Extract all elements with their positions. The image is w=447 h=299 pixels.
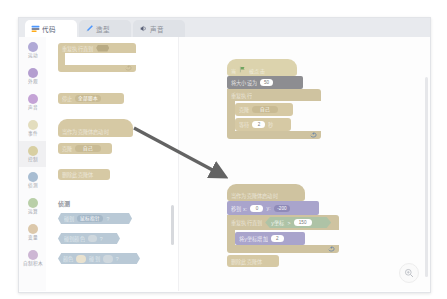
page-watermark xyxy=(180,1,270,12)
change-y-value-input[interactable]: 2 xyxy=(271,235,284,242)
editor-tab-bar: 代码 造型 声音 xyxy=(19,18,430,38)
palette-block-stop[interactable]: 停止 全部脚本 xyxy=(58,93,124,104)
block-set-size-to[interactable]: 将大小设为 50 xyxy=(227,76,303,89)
palette-block-delete-clone[interactable]: 删除此克隆体 xyxy=(58,169,110,180)
clicked-label: 被点击 xyxy=(249,67,265,74)
green-flag-icon xyxy=(239,66,246,74)
block-label: 删除此克隆体 xyxy=(62,171,93,178)
operators-dot-icon xyxy=(28,198,38,208)
sidebar-item-motion[interactable]: 运动 xyxy=(19,37,46,63)
sidebar-item-events[interactable]: 事件 xyxy=(19,115,46,141)
repeat-until-top: 重复执行直到 y坐标 > 150 xyxy=(227,215,339,230)
category-label: 事件 xyxy=(28,131,38,136)
x-value-input[interactable]: 0 xyxy=(250,205,263,212)
palette-block-create-clone[interactable]: 克隆 自己 xyxy=(58,143,112,154)
operator-symbol: > xyxy=(287,220,290,226)
events-dot-icon xyxy=(28,120,38,130)
block-repeat-until[interactable]: 重复执行直到 y坐标 > 150 将y坐标增加 2 xyxy=(227,215,339,253)
condition-greater-than[interactable]: y坐标 > 150 xyxy=(265,217,331,228)
palette-section-sensing: 侦测 xyxy=(58,199,70,208)
script-clone-start[interactable]: 当作为克隆体启动时 移到 x: 0 y: -200 重复执行直到 y坐标 > xyxy=(227,184,339,267)
block-when-flag-clicked[interactable]: 当 被点击 xyxy=(227,59,297,76)
block-wait-seconds[interactable]: 等待 2 秒 xyxy=(235,118,291,131)
block-go-to-xy[interactable]: 移到 x: 0 y: -200 xyxy=(227,201,319,215)
tab-sounds-label: 声音 xyxy=(150,24,164,34)
palette-block-repeat-until[interactable]: 重复执行直到 xyxy=(58,43,136,72)
tab-code-label: 代码 xyxy=(42,24,56,34)
zoom-control-button[interactable] xyxy=(399,263,419,283)
clone-target-dropdown[interactable]: 自己 xyxy=(75,145,101,152)
palette-block-when-clone-start[interactable]: 当作为克隆体启动时 xyxy=(58,119,133,137)
block-label: 碰到 xyxy=(89,255,99,262)
block-when-i-start-as-clone[interactable]: 当作为克隆体启动时 xyxy=(227,184,305,201)
y-value-input[interactable]: -200 xyxy=(274,205,290,212)
sidebar-item-control[interactable]: 控制 xyxy=(19,141,46,167)
size-value-input[interactable]: 50 xyxy=(260,79,273,86)
block-label: 当作为克隆体启动时 xyxy=(62,128,109,135)
tab-costumes-label: 造型 xyxy=(96,24,110,34)
touching-target-dropdown[interactable]: 鼠标指针 xyxy=(77,215,103,222)
block-label: 将y坐标增加 xyxy=(239,235,268,242)
sidebar-item-sound[interactable]: 声音 xyxy=(19,89,46,115)
palette-block-touching[interactable]: 碰到 鼠标指针 ? xyxy=(58,213,132,224)
operand-left: y坐标 xyxy=(271,219,284,226)
block-label: 停止 xyxy=(62,95,72,102)
block-palette[interactable]: 重复执行直到 停止 全部脚本 当作为克隆体启动时 xyxy=(46,37,178,291)
color-swatch[interactable] xyxy=(88,235,97,242)
condition-slot[interactable] xyxy=(96,45,109,52)
code-canvas[interactable]: 当 被点击 将大小设为 50 重复执行 xyxy=(178,37,431,291)
brush-icon xyxy=(85,24,94,33)
block-suffix: ? xyxy=(116,256,119,262)
block-delete-this-clone[interactable]: 删除此克隆体 xyxy=(227,255,279,267)
palette-block-touching-color[interactable]: 碰到颜色 ? xyxy=(58,233,120,244)
block-label: 移到 x: xyxy=(231,205,247,212)
category-label: 外观 xyxy=(28,79,38,84)
block-forever[interactable]: 重复执行 克隆 自己 等待 2 秒 xyxy=(227,89,321,139)
block-label: 将大小设为 xyxy=(231,79,257,86)
script-green-flag[interactable]: 当 被点击 将大小设为 50 重复执行 xyxy=(227,59,321,139)
clone-target-dropdown[interactable]: 自己 xyxy=(252,106,278,113)
category-label: 声音 xyxy=(28,105,38,110)
sidebar-item-myblocks[interactable]: 自制积木 xyxy=(19,245,46,271)
color-swatch-b[interactable] xyxy=(103,255,113,263)
block-prefix: 颜色 xyxy=(63,255,73,262)
tab-code[interactable]: 代码 xyxy=(25,20,77,37)
block-create-clone[interactable]: 克隆 自己 xyxy=(235,103,293,116)
wait-value-input[interactable]: 2 xyxy=(252,121,265,128)
sensing-dot-icon xyxy=(28,172,38,182)
scratch-editor-window: 代码 造型 声音 运 xyxy=(18,17,431,293)
sidebar-item-variables[interactable]: 变量 xyxy=(19,219,46,245)
forever-top: 重复执行 xyxy=(227,89,321,101)
looks-dot-icon xyxy=(28,68,38,78)
block-label: 重复执行 xyxy=(231,92,252,99)
sidebar-item-operators[interactable]: 运算 xyxy=(19,193,46,219)
editor-body: 运动 外观 声音 事件 控制 侦测 xyxy=(19,37,430,291)
tab-costumes[interactable]: 造型 xyxy=(79,20,131,37)
palette-block-color-touching[interactable]: 颜色 碰到 ? xyxy=(58,253,140,264)
block-label: 碰到 xyxy=(64,215,74,222)
tab-sounds[interactable]: 声音 xyxy=(133,20,185,37)
when-label: 当 xyxy=(231,67,236,74)
category-list: 运动 外观 声音 事件 控制 侦测 xyxy=(19,37,47,291)
y-label: y: xyxy=(266,205,270,211)
loop-arrow-icon xyxy=(125,65,132,72)
palette-scrollbar[interactable] xyxy=(171,205,174,245)
stop-option-dropdown[interactable]: 全部脚本 xyxy=(75,95,101,102)
block-suffix: ? xyxy=(100,236,103,242)
sidebar-item-looks[interactable]: 外观 xyxy=(19,63,46,89)
sidebar-item-sensing[interactable]: 侦测 xyxy=(19,167,46,193)
block-label: 克隆 xyxy=(62,145,72,152)
repeat-until-bottom xyxy=(227,245,339,253)
block-suffix: 秒 xyxy=(268,121,273,128)
loop-arrow-icon xyxy=(310,132,317,139)
speaker-icon xyxy=(139,24,148,33)
repeat-until-arm xyxy=(227,230,235,245)
category-label: 自制积木 xyxy=(23,261,43,266)
magnifier-icon xyxy=(404,264,414,282)
block-change-y-by[interactable]: 将y坐标增加 2 xyxy=(235,232,305,245)
block-label: 删除此克隆体 xyxy=(231,258,262,265)
operand-right-input[interactable]: 150 xyxy=(294,219,312,226)
canvas-scrollbar[interactable] xyxy=(425,77,428,277)
color-swatch-a[interactable] xyxy=(76,255,86,263)
category-label: 运动 xyxy=(28,53,38,58)
